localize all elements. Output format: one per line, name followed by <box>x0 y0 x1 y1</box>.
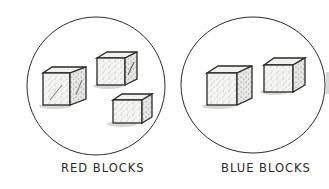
blue-block-2 <box>260 58 305 95</box>
blue-blocks-label: BLUE BLOCKS <box>221 161 311 175</box>
red-block-2 <box>93 52 137 89</box>
red-block-1 <box>39 67 86 109</box>
red-blocks-label: RED BLOCKS <box>61 161 145 175</box>
blue-block-1 <box>202 66 252 109</box>
red-group <box>27 17 165 155</box>
blue-group <box>181 17 325 153</box>
red-block-3 <box>107 94 152 127</box>
